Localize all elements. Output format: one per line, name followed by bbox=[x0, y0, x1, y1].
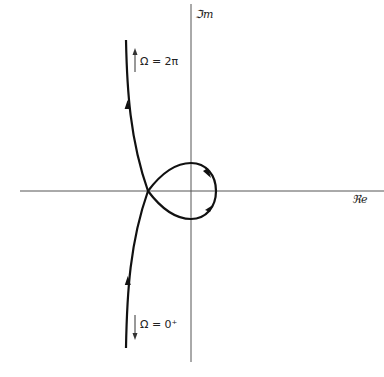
omega-2pi-arrow-icon bbox=[133, 48, 138, 55]
imaginary-axis-label: ℑm bbox=[195, 8, 213, 21]
omega-0-label: Ω = 0⁺ bbox=[140, 318, 177, 331]
omega-0-arrow-icon bbox=[133, 333, 138, 340]
nyquist-diagram: ℑm ℜe Ω = 2π Ω = 0⁺ bbox=[0, 0, 384, 377]
diagram-canvas bbox=[0, 0, 384, 377]
omega-2pi-label: Ω = 2π bbox=[140, 55, 178, 68]
real-axis-label: ℜe bbox=[352, 193, 368, 206]
